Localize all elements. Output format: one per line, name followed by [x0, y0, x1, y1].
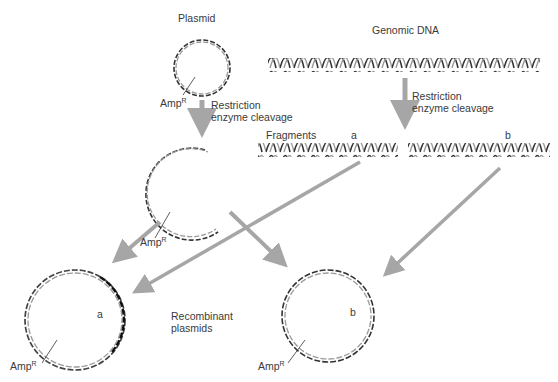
fragment-b-label: b: [505, 129, 511, 141]
fragment-a-helix: [258, 143, 398, 157]
fragment-b-helix: [408, 143, 550, 157]
plasmid-label: Plasmid: [178, 12, 215, 24]
recombinant-plasmids-label: Recombinantplasmids: [171, 310, 233, 334]
restriction-label-left: Restrictionenzyme cleavage: [211, 99, 293, 123]
diagram-graphics: [0, 0, 558, 382]
fragments-label: Fragments: [266, 129, 316, 141]
plasmid-b-label: b: [350, 306, 356, 318]
genomic-dna-helix: [268, 58, 540, 72]
amp-label-a: AmpR: [10, 360, 37, 372]
amp-label-plasmid: AmpR: [160, 97, 187, 109]
amp-label-cut: AmpR: [140, 236, 167, 248]
fragment-a-label: a: [351, 129, 357, 141]
recombinant-plasmid-a: [25, 270, 125, 370]
restriction-label-right: Restrictionenzyme cleavage: [412, 90, 494, 114]
cloning-diagram: Plasmid Genomic DNA AmpR Restrictionenzy…: [0, 0, 558, 382]
arrow-fragment-b: [388, 168, 500, 272]
amp-label-b: AmpR: [258, 360, 285, 372]
plasmid-a-label: a: [97, 308, 103, 320]
arrow-fragment-a: [138, 162, 360, 290]
genomic-dna-label: Genomic DNA: [372, 24, 439, 36]
plasmid-circle: [174, 40, 230, 96]
recombinant-plasmid-b: [282, 270, 374, 363]
arrow-cut-to-b: [230, 212, 282, 262]
